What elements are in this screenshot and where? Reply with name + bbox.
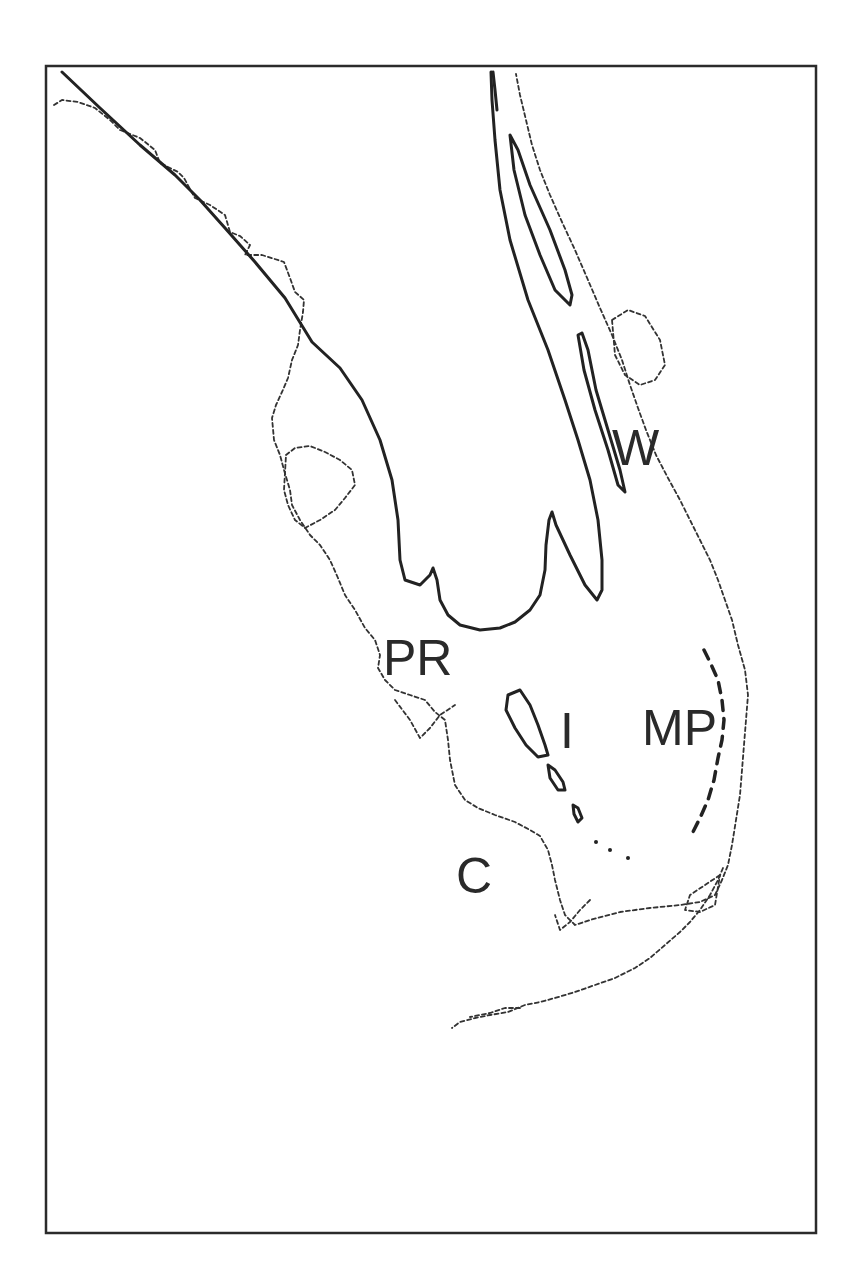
label-w: W xyxy=(612,420,660,476)
map-figure: W PR I MP C xyxy=(0,0,861,1283)
label-c: C xyxy=(456,848,492,904)
florida-map: W PR I MP C xyxy=(0,0,861,1283)
label-i: I xyxy=(560,703,574,759)
label-mp: MP xyxy=(642,700,717,756)
label-pr: PR xyxy=(383,630,452,686)
